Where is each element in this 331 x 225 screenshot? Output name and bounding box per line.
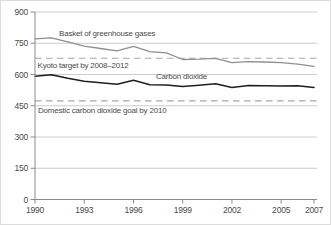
x-tick-label-2007: 2007 xyxy=(305,205,324,215)
y-tick-label-300: 300 xyxy=(14,132,28,142)
series-label-carbon-dioxide: Carbon dioxide xyxy=(156,72,208,81)
y-tick-label-150: 150 xyxy=(14,163,28,173)
reference-label-domestic-carbon-dioxide-goal-by-2010: Domestic carbon dioxide goal by 2010 xyxy=(38,106,167,115)
chart-canvas: 0150300450600750900199019931996199920022… xyxy=(1,1,331,225)
y-tick-label-750: 750 xyxy=(14,38,28,48)
x-tick-label-2005: 2005 xyxy=(272,205,291,215)
y-tick-label-0: 0 xyxy=(23,195,28,205)
x-tick-label-1996: 1996 xyxy=(124,205,143,215)
x-tick-label-1990: 1990 xyxy=(26,205,45,215)
x-tick-label-1999: 1999 xyxy=(174,205,193,215)
x-tick-label-1993: 1993 xyxy=(75,205,94,215)
y-tick-label-600: 600 xyxy=(14,70,28,80)
series-label-basket-of-greenhouse-gases: Basket of greenhouse gases xyxy=(59,29,155,38)
y-tick-label-900: 900 xyxy=(14,7,28,17)
y-tick-label-450: 450 xyxy=(14,101,28,111)
x-tick-label-2002: 2002 xyxy=(223,205,242,215)
reference-label-kyoto-target-by-2008-2012: Kyoto target by 2008–2012 xyxy=(38,61,130,70)
emissions-line-chart: 0150300450600750900199019931996199920022… xyxy=(0,0,331,225)
